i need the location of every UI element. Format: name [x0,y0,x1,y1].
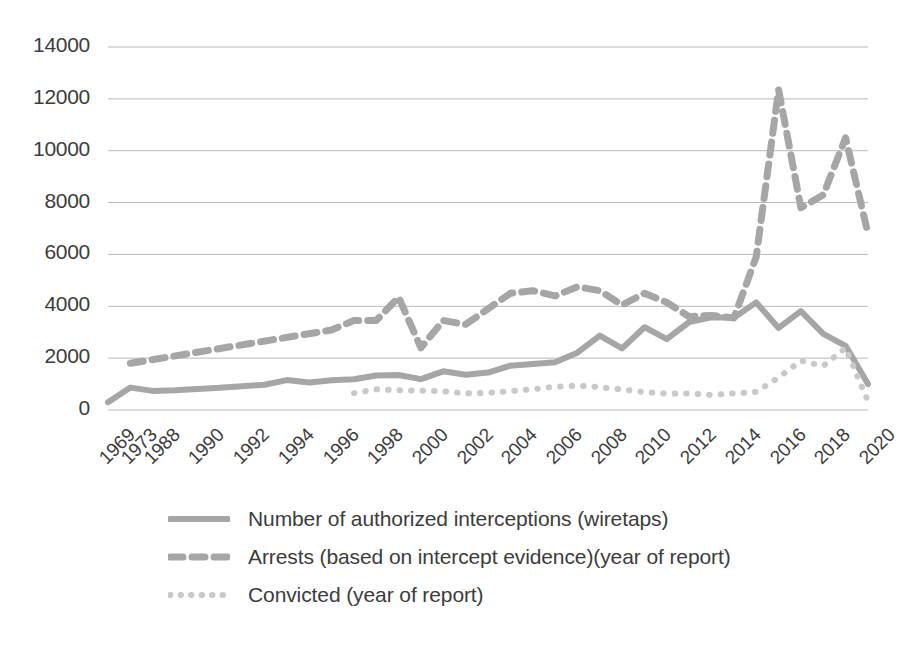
y-axis-tick-label: 12000 [0,85,90,109]
y-axis-tick-label: 2000 [0,344,90,368]
legend-label: Arrests (based on intercept evidence)(ye… [248,545,731,569]
chart-legend: Number of authorized interceptions (wire… [168,500,888,614]
legend-swatch-dashed-icon [168,547,230,567]
series-line [108,302,868,402]
y-axis-tick-label: 0 [0,396,90,420]
y-axis-tick-label: 10000 [0,137,90,161]
y-axis-tick-label: 4000 [0,292,90,316]
legend-item[interactable]: Convicted (year of report) [168,576,888,614]
legend-swatch-dotted-icon [168,585,230,605]
series-line [130,90,868,364]
legend-swatch-solid-icon [168,509,230,529]
gridlines [108,47,868,410]
wiretap-statistics-chart: 14000120001000080006000400020000 1969197… [0,0,902,654]
y-axis-tick-label: 14000 [0,33,90,57]
legend-label: Convicted (year of report) [248,583,484,607]
legend-label: Number of authorized interceptions (wire… [248,507,668,531]
y-axis-tick-label: 6000 [0,240,90,264]
series-lines [108,90,868,402]
y-axis-tick-label: 8000 [0,189,90,213]
legend-item[interactable]: Number of authorized interceptions (wire… [168,500,888,538]
legend-item[interactable]: Arrests (based on intercept evidence)(ye… [168,538,888,576]
